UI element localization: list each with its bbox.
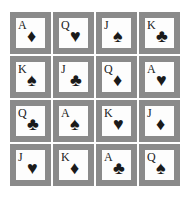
- card-face: A♥: [145, 62, 174, 92]
- card-rank: A: [147, 63, 156, 75]
- card-face: K♠: [16, 62, 45, 92]
- card-rank: J: [61, 63, 66, 75]
- diamond-icon: ♦: [27, 27, 36, 45]
- card-tile-r3c4[interactable]: J♦: [139, 100, 180, 142]
- card-face: A♣: [102, 150, 131, 180]
- club-icon: ♣: [156, 27, 168, 45]
- card-tile-r3c1[interactable]: Q♣: [10, 100, 51, 142]
- card-face: J♣: [59, 62, 88, 92]
- card-rank: J: [104, 19, 109, 31]
- card-rank: Q: [147, 151, 156, 163]
- diamond-icon: ♦: [70, 159, 79, 177]
- card-rank: K: [104, 107, 113, 119]
- card-rank: A: [104, 151, 113, 163]
- heart-icon: ♥: [156, 71, 167, 89]
- card-rank: Q: [61, 19, 70, 31]
- card-face: K♥: [102, 106, 131, 136]
- card-face: J♦: [145, 106, 174, 136]
- card-face: A♠: [59, 106, 88, 136]
- card-face: J♥: [16, 150, 45, 180]
- card-rank: A: [18, 19, 27, 31]
- club-icon: ♣: [27, 115, 39, 133]
- club-icon: ♣: [70, 71, 82, 89]
- heart-icon: ♥: [113, 115, 124, 133]
- card-face: Q♣: [16, 106, 45, 136]
- card-face: Q♠: [145, 150, 174, 180]
- card-tile-r2c1[interactable]: K♠: [10, 56, 51, 98]
- card-tile-r4c1[interactable]: J♥: [10, 144, 51, 186]
- heart-icon: ♥: [27, 159, 38, 177]
- card-tile-r4c2[interactable]: K♦: [53, 144, 94, 186]
- diamond-icon: ♦: [113, 71, 122, 89]
- card-face: A♦: [16, 18, 45, 48]
- card-rank: J: [147, 107, 152, 119]
- card-rank: J: [18, 151, 23, 163]
- card-tile-r1c4[interactable]: K♣: [139, 12, 180, 54]
- card-tile-r2c3[interactable]: Q♦: [96, 56, 137, 98]
- spade-icon: ♠: [27, 71, 37, 89]
- card-tile-r3c3[interactable]: K♥: [96, 100, 137, 142]
- card-tile-r1c3[interactable]: J♠: [96, 12, 137, 54]
- card-face: Q♥: [59, 18, 88, 48]
- card-tile-r4c4[interactable]: Q♠: [139, 144, 180, 186]
- card-face: Q♦: [102, 62, 131, 92]
- diamond-icon: ♦: [156, 115, 165, 133]
- card-tile-r1c1[interactable]: A♦: [10, 12, 51, 54]
- card-rank: K: [18, 63, 27, 75]
- card-rank: A: [61, 107, 70, 119]
- card-tile-r2c2[interactable]: J♣: [53, 56, 94, 98]
- card-face: K♦: [59, 150, 88, 180]
- card-tile-r4c3[interactable]: A♣: [96, 144, 137, 186]
- card-grid: A♦ Q♥ J♠ K♣ K♠ J♣ Q♦ A♥ Q♣ A♠ K♥ J♦ J♥ K…: [10, 12, 180, 186]
- card-tile-r3c2[interactable]: A♠: [53, 100, 94, 142]
- card-tile-r2c4[interactable]: A♥: [139, 56, 180, 98]
- club-icon: ♣: [113, 159, 125, 177]
- card-rank: K: [147, 19, 156, 31]
- card-rank: K: [61, 151, 70, 163]
- card-tile-r1c2[interactable]: Q♥: [53, 12, 94, 54]
- card-rank: Q: [104, 63, 113, 75]
- card-rank: Q: [18, 107, 27, 119]
- card-face: K♣: [145, 18, 174, 48]
- spade-icon: ♠: [113, 27, 123, 45]
- spade-icon: ♠: [70, 115, 80, 133]
- spade-icon: ♠: [156, 159, 166, 177]
- heart-icon: ♥: [70, 27, 81, 45]
- card-face: J♠: [102, 18, 131, 48]
